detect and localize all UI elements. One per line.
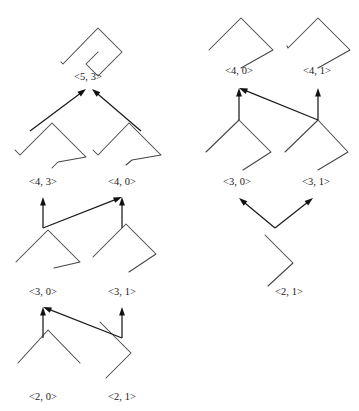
curve-layer — [15, 18, 350, 378]
arrow-r31-to-r40 — [239, 88, 318, 120]
node-label-r21: <2, 1> — [275, 286, 303, 297]
node-label-l40: <4, 0> — [108, 176, 136, 187]
arrow-r21-to-r31 — [275, 198, 313, 228]
arrow-l43-to-l53 — [30, 89, 86, 131]
curve-shape-l31 — [93, 224, 156, 272]
curve-shape-l40 — [93, 123, 161, 165]
figure-canvas: <5, 3><4, 3><4, 0><3, 0><3, 1><2, 0><2, … — [0, 0, 359, 411]
arrow-shaft — [97, 93, 141, 131]
curve-shape-l20 — [18, 330, 80, 363]
node-label-r40: <4, 0> — [225, 65, 253, 76]
derivation-diagram: <5, 3><4, 3><4, 0><3, 0><3, 1><2, 0><2, … — [0, 0, 359, 411]
arrow-l31-to-l40 — [119, 197, 125, 228]
arrow-l40-to-l53 — [92, 89, 141, 131]
arrow-shaft — [245, 90, 318, 120]
curve-shape-r30 — [206, 120, 271, 170]
arrow-head — [315, 88, 321, 97]
arrow-l30-to-l40 — [43, 197, 122, 228]
node-label-l30: <3, 0> — [29, 286, 57, 297]
arrow-head — [119, 307, 125, 316]
arrow-layer — [30, 88, 321, 338]
node-label-l21: <2, 1> — [108, 391, 136, 402]
arrow-l21-to-l30 — [43, 307, 122, 338]
arrow-shaft — [275, 202, 308, 228]
curve-shape-l21 — [100, 322, 131, 378]
arrow-r31-to-r41 — [315, 88, 321, 120]
curve-shape-r21 — [265, 235, 293, 286]
arrow-r30-to-r40 — [236, 88, 242, 120]
arrow-shaft — [43, 199, 116, 228]
node-label-r31: <3, 1> — [302, 176, 330, 187]
node-label-l31: <3, 1> — [108, 286, 136, 297]
curve-shape-r41 — [287, 18, 350, 68]
arrow-l30-to-l43 — [40, 197, 46, 228]
arrow-r21-to-r30 — [239, 198, 275, 228]
label-layer: <5, 3><4, 3><4, 0><3, 0><3, 1><2, 0><2, … — [29, 65, 331, 402]
arrow-head — [77, 89, 86, 96]
curve-shape-l43 — [15, 123, 86, 168]
curve-shape-l53 — [61, 28, 122, 76]
arrow-head — [40, 197, 46, 206]
node-label-l20: <2, 0> — [29, 391, 57, 402]
node-label-l43: <4, 3> — [29, 176, 57, 187]
node-label-r30: <3, 0> — [223, 176, 251, 187]
node-label-l53: <5, 3> — [74, 71, 102, 82]
arrow-shaft — [49, 309, 122, 338]
node-label-r41: <4, 1> — [303, 65, 331, 76]
arrow-shaft — [30, 93, 81, 131]
curve-shape-r40 — [209, 18, 273, 68]
arrow-shaft — [244, 202, 275, 228]
curve-shape-l30 — [16, 230, 80, 268]
arrow-l21-to-l31 — [119, 307, 125, 338]
curve-shape-r31 — [285, 120, 348, 170]
